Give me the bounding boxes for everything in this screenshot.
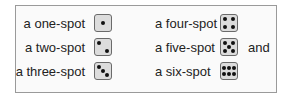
trailing-and-text: and bbox=[248, 40, 270, 55]
die-six-spot-icon bbox=[220, 62, 238, 80]
label-three-spot: a three-spot bbox=[16, 64, 85, 79]
die-one-spot-icon bbox=[94, 14, 112, 32]
label-two-spot: a two-spot bbox=[25, 40, 85, 55]
die-four-spot-icon bbox=[220, 14, 238, 32]
label-five-spot: a five-spot bbox=[155, 40, 215, 55]
die-two-spot-icon bbox=[94, 38, 112, 56]
die-three-spot-icon bbox=[94, 62, 112, 80]
label-one-spot: a one-spot bbox=[24, 16, 85, 31]
label-six-spot: a six-spot bbox=[155, 64, 211, 79]
label-four-spot: a four-spot bbox=[155, 16, 217, 31]
die-five-spot-icon bbox=[220, 38, 238, 56]
